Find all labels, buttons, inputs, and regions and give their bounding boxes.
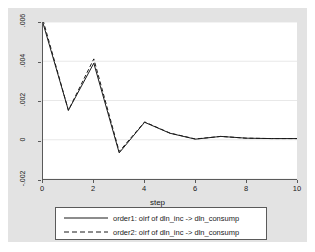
x-axis-title: step <box>8 198 307 207</box>
y-tick-label: 0 <box>19 125 26 153</box>
x-tick-label: 2 <box>91 184 95 193</box>
legend-label: order2: oirf of dln_inc -> dln_consump <box>113 228 239 237</box>
legend-item-1: order1: oirf of dln_inc -> dln_consump <box>56 211 266 225</box>
legend-item-2: order2: oirf of dln_inc -> dln_consump <box>56 225 266 239</box>
y-tick-label: .002 <box>19 86 26 114</box>
figure-canvas: .006.004.0020-.002 0246810 step order1: … <box>0 0 315 252</box>
legend-key-dashed-icon <box>64 227 108 237</box>
y-tick-mark <box>38 180 41 181</box>
x-tick-mark <box>246 180 247 183</box>
graph-panel: .006.004.0020-.002 0246810 step order1: … <box>8 8 307 242</box>
x-tick-label: 6 <box>193 184 197 193</box>
x-tick-mark <box>144 180 145 183</box>
x-tick-label: 8 <box>244 184 248 193</box>
y-tick-label: .006 <box>19 7 26 35</box>
x-tick-label: 10 <box>293 184 301 193</box>
y-tick-mark <box>38 101 41 102</box>
x-tick-mark <box>93 180 94 183</box>
x-tick-mark <box>42 180 43 183</box>
legend-label: order1: oirf of dln_inc -> dln_consump <box>113 214 239 223</box>
y-tick-label: .004 <box>19 46 26 74</box>
plot-svg <box>43 22 297 179</box>
x-tick-mark <box>297 180 298 183</box>
y-tick-label: -.002 <box>19 165 26 193</box>
x-tick-label: 0 <box>40 184 44 193</box>
chart-legend: order1: oirf of dln_inc -> dln_consumpor… <box>55 207 267 240</box>
legend-key-solid-icon <box>64 213 108 223</box>
plot-region <box>42 22 297 180</box>
y-tick-mark <box>38 141 41 142</box>
y-tick-mark <box>38 62 41 63</box>
x-tick-mark <box>195 180 196 183</box>
y-tick-mark <box>38 22 41 23</box>
x-tick-label: 4 <box>142 184 146 193</box>
